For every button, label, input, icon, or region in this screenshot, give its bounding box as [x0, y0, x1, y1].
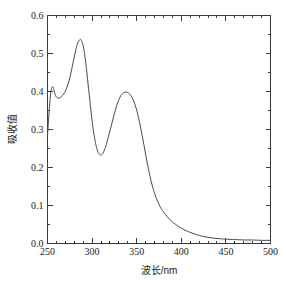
y-tick-label: 0.2: [31, 162, 44, 173]
x-axis-title: 波长/nm: [141, 264, 178, 276]
x-tick-label: 300: [85, 246, 100, 257]
x-tick-label: 400: [174, 246, 189, 257]
absorption-spectrum-chart: 250300350400450500 0.00.10.20.30.40.50.6…: [0, 0, 286, 284]
plot-frame: [48, 16, 271, 244]
x-tick-label: 450: [218, 246, 233, 257]
chart-svg: 250300350400450500 0.00.10.20.30.40.50.6…: [0, 0, 286, 284]
y-tick-label: 0.6: [31, 10, 44, 21]
y-tick-label: 0.1: [31, 200, 44, 211]
x-axis-ticks: [48, 16, 271, 244]
x-axis-tick-labels: 250300350400450500: [40, 246, 278, 257]
y-tick-label: 0.3: [31, 124, 44, 135]
x-tick-label: 500: [263, 246, 278, 257]
y-tick-label: 0.5: [31, 48, 44, 59]
x-tick-label: 350: [129, 246, 144, 257]
y-tick-label: 0.0: [31, 238, 44, 249]
absorbance-curve: [48, 39, 271, 240]
y-tick-label: 0.4: [31, 86, 44, 97]
y-axis-title: 吸收值: [6, 114, 18, 144]
y-axis-tick-labels: 0.00.10.20.30.40.50.6: [31, 10, 44, 249]
y-axis-ticks: [48, 16, 271, 244]
